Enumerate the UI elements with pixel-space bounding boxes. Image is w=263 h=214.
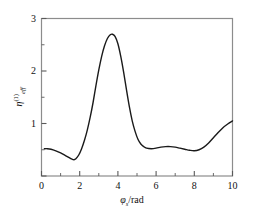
axes-frame — [42, 19, 233, 177]
chart-figure: 0246810 123 φs/rad η(1)eff — [0, 0, 263, 214]
x-axis-title: φs/rad — [120, 194, 144, 207]
x-tick-label: 6 — [154, 181, 159, 191]
x-tick-label: 0 — [39, 181, 44, 191]
y-axis-title: η(1)eff — [12, 84, 26, 110]
x-tick-label: 8 — [192, 181, 197, 191]
y-tick-label: 3 — [24, 14, 36, 24]
x-tick-label: 10 — [228, 181, 238, 191]
axis-tick-marks — [42, 19, 233, 177]
data-series-line — [44, 34, 232, 160]
y-tick-label: 1 — [24, 119, 36, 129]
y-tick-label: 2 — [24, 66, 36, 76]
plot-frame — [42, 19, 233, 177]
x-tick-label: 4 — [115, 181, 120, 191]
x-tick-label: 2 — [77, 181, 82, 191]
